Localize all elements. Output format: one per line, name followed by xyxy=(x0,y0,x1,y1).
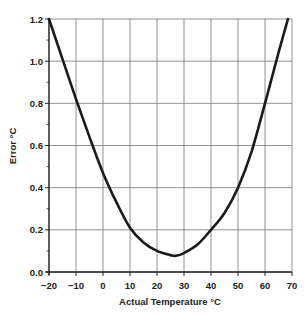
x-tick-label: −20 xyxy=(41,280,57,291)
y-tick-label: 0.0 xyxy=(30,267,43,278)
y-axis-title: Error °C xyxy=(7,128,18,165)
x-axis-title: Actual Temperature °C xyxy=(119,296,221,307)
x-axis-ticks: −20−10010203040506070 xyxy=(41,272,297,291)
x-tick-label: −10 xyxy=(68,280,84,291)
y-tick-label: 0.4 xyxy=(30,182,44,193)
x-tick-label: 20 xyxy=(152,280,163,291)
x-tick-label: 70 xyxy=(287,280,298,291)
axes xyxy=(46,19,292,275)
y-tick-label: 0.2 xyxy=(30,224,43,235)
x-tick-label: 50 xyxy=(233,280,244,291)
error-curve xyxy=(49,19,288,256)
grid-lines xyxy=(49,19,292,272)
error-vs-temperature-chart: −20−10010203040506070 0.00.20.40.60.81.0… xyxy=(0,0,307,324)
x-tick-label: 10 xyxy=(125,280,136,291)
y-tick-label: 1.0 xyxy=(30,56,43,67)
x-tick-label: 40 xyxy=(206,280,217,291)
x-tick-label: 30 xyxy=(179,280,190,291)
y-axis-ticks: 0.00.20.40.60.81.01.2 xyxy=(30,14,49,278)
y-tick-label: 1.2 xyxy=(30,14,43,25)
y-tick-label: 0.6 xyxy=(30,140,43,151)
y-tick-label: 0.8 xyxy=(30,98,43,109)
x-tick-label: 0 xyxy=(100,280,105,291)
x-tick-label: 60 xyxy=(260,280,271,291)
